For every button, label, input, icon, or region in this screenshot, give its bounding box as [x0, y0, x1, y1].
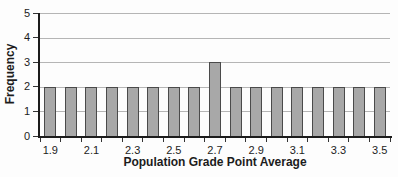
bar: [209, 62, 221, 136]
y-tick: [33, 13, 38, 14]
gridline: [40, 13, 390, 14]
bar: [250, 87, 262, 136]
x-tick: [142, 138, 143, 142]
y-tick-label: 2: [4, 80, 30, 93]
y-tick-label: 1: [4, 105, 30, 118]
plot-area: 0123451.92.12.32.52.72.93.13.33.5: [40, 13, 390, 136]
y-tick-label: 3: [4, 56, 30, 69]
x-tick: [184, 138, 185, 142]
x-tick: [287, 138, 288, 142]
x-tick: [163, 138, 164, 142]
bar: [65, 87, 77, 136]
y-tick: [33, 136, 38, 137]
x-tick: [40, 138, 41, 142]
x-axis-line: [38, 136, 392, 138]
y-tick: [33, 37, 38, 38]
x-tick-label: 2.1: [75, 144, 107, 156]
x-axis-title: Population Grade Point Average: [123, 155, 306, 169]
y-tick: [33, 86, 38, 87]
bar: [106, 87, 118, 136]
y-tick-label: 5: [4, 7, 30, 20]
x-tick: [266, 138, 267, 142]
bar: [271, 87, 283, 136]
bar: [168, 87, 180, 136]
y-tick-label: 0: [4, 130, 30, 143]
y-axis-title: Frequency: [3, 44, 17, 105]
bar: [85, 87, 97, 136]
bar-chart: Frequency 0123451.92.12.32.52.72.93.13.3…: [0, 0, 398, 177]
bar: [291, 87, 303, 136]
x-tick: [225, 138, 226, 142]
x-tick: [60, 138, 61, 142]
y-tick-label: 4: [4, 31, 30, 44]
y-tick: [33, 62, 38, 63]
x-tick: [390, 138, 391, 142]
x-tick: [307, 138, 308, 142]
bar: [374, 87, 386, 136]
bar: [188, 87, 200, 136]
bar: [353, 87, 365, 136]
bar: [230, 87, 242, 136]
bar: [147, 87, 159, 136]
y-tick: [33, 111, 38, 112]
x-tick: [204, 138, 205, 142]
x-tick-label: 3.5: [364, 144, 396, 156]
y-axis-line: [38, 13, 40, 138]
x-tick: [369, 138, 370, 142]
bar: [333, 87, 345, 136]
bar: [312, 87, 324, 136]
x-tick-label: 1.9: [34, 144, 66, 156]
x-tick: [328, 138, 329, 142]
bar: [44, 87, 56, 136]
x-tick: [101, 138, 102, 142]
gridline: [40, 38, 390, 39]
x-tick: [81, 138, 82, 142]
bar: [127, 87, 139, 136]
x-tick: [348, 138, 349, 142]
x-tick-label: 3.3: [323, 144, 355, 156]
x-tick: [245, 138, 246, 142]
x-tick: [122, 138, 123, 142]
